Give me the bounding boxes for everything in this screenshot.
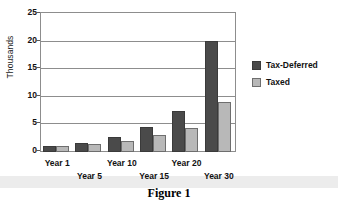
- x-axis-label: Year 5: [65, 171, 115, 181]
- bar: [121, 141, 134, 152]
- bar: [75, 143, 88, 152]
- x-axis-label: Year 10: [97, 158, 147, 168]
- y-tick-label: 25: [11, 8, 37, 17]
- bar: [140, 127, 153, 152]
- y-axis-title: Thousands: [5, 17, 19, 97]
- x-axis-label: Year 1: [32, 158, 82, 168]
- bar-group: [138, 13, 170, 152]
- bar-group: [73, 13, 105, 152]
- legend-swatch-icon: [252, 61, 261, 70]
- bar: [43, 146, 56, 152]
- bars-layer: [41, 13, 235, 152]
- bar-group: [170, 13, 202, 152]
- bar: [218, 102, 231, 152]
- figure-caption: Figure 1: [0, 186, 338, 201]
- legend-item: Taxed: [252, 77, 338, 88]
- y-tick-label: 10: [11, 91, 37, 100]
- y-tick-label: 20: [11, 36, 37, 45]
- y-tick-label: 15: [11, 63, 37, 72]
- legend-label: Tax-Deferred: [266, 61, 318, 70]
- y-tick-label: 0: [11, 146, 37, 155]
- bar: [185, 128, 198, 152]
- bar-group: [106, 13, 138, 152]
- bar: [108, 137, 121, 152]
- legend-swatch-icon: [252, 78, 261, 87]
- x-axis-label: Year 20: [162, 158, 212, 168]
- bar-group: [203, 13, 235, 152]
- x-axis-label: Year 15: [129, 171, 179, 181]
- x-axis-labels: Year 1Year 5Year 10Year 15Year 20Year 30: [0, 155, 338, 185]
- bar: [205, 41, 218, 153]
- bar: [56, 146, 69, 152]
- legend-label: Taxed: [266, 78, 290, 87]
- bar: [172, 111, 185, 152]
- y-tick-label: 5: [11, 118, 37, 127]
- bar-group: [41, 13, 73, 152]
- figure-container: Thousands 0510152025 Year 1Year 5Year 10…: [0, 0, 338, 202]
- legend-item: Tax-Deferred: [252, 60, 338, 71]
- bar: [88, 144, 101, 152]
- x-axis-label: Year 30: [194, 171, 244, 181]
- chart-legend: Tax-DeferredTaxed: [252, 60, 338, 94]
- bar: [153, 135, 166, 152]
- bar-chart: Thousands 0510152025 Year 1Year 5Year 10…: [0, 0, 338, 176]
